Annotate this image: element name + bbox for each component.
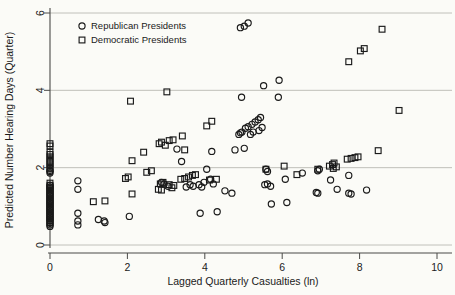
y-axis-label: Predicted Number Hearing Days (Quarter) — [3, 32, 15, 229]
x-tick-label-4: 4 — [202, 261, 208, 273]
legend-label-republican: Republican Presidents — [91, 20, 186, 31]
chart-container: 0246810 0246 Republican PresidentsDemocr… — [0, 0, 455, 295]
x-tick-label-0: 0 — [47, 261, 53, 273]
x-tick-label-6: 6 — [279, 261, 285, 273]
plot-background — [0, 0, 455, 295]
x-tick-label-2: 2 — [124, 261, 130, 273]
y-tick-label-0: 0 — [34, 242, 46, 248]
legend-label-democratic: Democratic Presidents — [91, 34, 187, 45]
scatter-plot: 0246810 0246 Republican PresidentsDemocr… — [0, 0, 455, 295]
x-axis-label: Lagged Quarterly Casualties (ln) — [167, 275, 318, 287]
y-tick-label-4: 4 — [34, 87, 46, 93]
y-tick-label-2: 2 — [34, 165, 46, 171]
x-tick-label-8: 8 — [357, 261, 363, 273]
x-tick-label-10: 10 — [431, 261, 443, 273]
y-tick-label-6: 6 — [34, 10, 46, 16]
